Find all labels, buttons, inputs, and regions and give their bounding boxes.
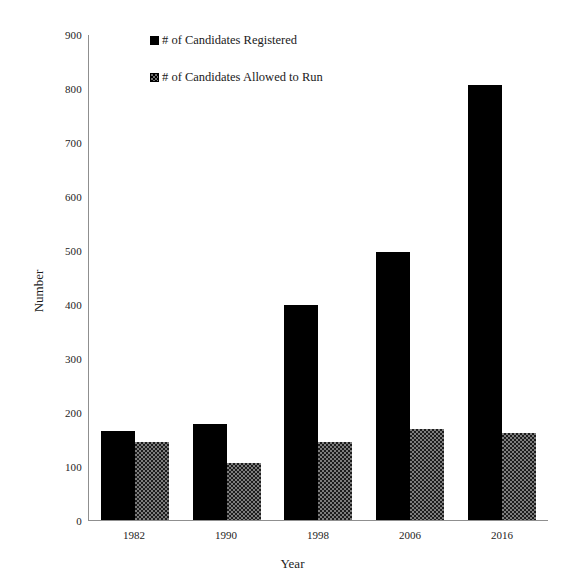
bar-allowed — [227, 463, 261, 520]
y-axis-tick-label: 200 — [65, 407, 89, 419]
bar-registered — [193, 424, 227, 520]
chart-legend: # of Candidates Registered # of Candidat… — [150, 33, 323, 85]
y-axis-tick-label: 700 — [65, 137, 89, 149]
bar-allowed — [135, 442, 169, 520]
bar-groups — [89, 35, 548, 520]
y-axis-title: Number — [31, 270, 47, 313]
bar-allowed — [318, 442, 352, 520]
x-axis-tick-label: 1990 — [180, 523, 272, 541]
y-axis-tick-label: 900 — [65, 29, 89, 41]
legend-label: # of Candidates Registered — [162, 33, 297, 48]
y-axis-tick-label: 500 — [65, 245, 89, 257]
legend-label: # of Candidates Allowed to Run — [162, 70, 323, 85]
bar-group — [181, 35, 273, 520]
x-axis-tick-label: 2016 — [456, 523, 548, 541]
checkered-square-icon — [150, 73, 159, 82]
legend-item-allowed: # of Candidates Allowed to Run — [150, 70, 323, 85]
x-axis-tick-labels: 19821990199820062016 — [88, 523, 548, 541]
y-axis-tick-label: 800 — [65, 83, 89, 95]
bar-chart: Number 0100200300400500600700800900 1982… — [0, 0, 585, 582]
plot-area: 0100200300400500600700800900 — [88, 35, 548, 521]
bar-group — [456, 35, 548, 520]
bar-registered — [376, 252, 410, 520]
x-axis-tick-label: 1982 — [88, 523, 180, 541]
x-axis-tick-label: 1998 — [272, 523, 364, 541]
bar-registered — [101, 431, 135, 520]
bar-registered — [284, 305, 318, 520]
legend-item-registered: # of Candidates Registered — [150, 33, 323, 48]
y-axis-tick-label: 100 — [65, 461, 89, 473]
bar-group — [89, 35, 181, 520]
solid-black-square-icon — [150, 36, 159, 45]
bar-allowed — [502, 433, 536, 520]
bar-group — [273, 35, 365, 520]
x-axis-tick-label: 2006 — [364, 523, 456, 541]
y-axis-tick-label: 400 — [65, 299, 89, 311]
bar-allowed — [410, 429, 444, 520]
y-axis-tick-label: 300 — [65, 353, 89, 365]
y-axis-tick-label: 600 — [65, 191, 89, 203]
bar-group — [364, 35, 456, 520]
bar-registered — [468, 85, 502, 520]
x-axis-title: Year — [0, 556, 585, 572]
